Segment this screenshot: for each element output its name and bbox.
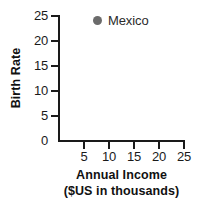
legend-item-label-mexico: Mexico xyxy=(108,14,149,27)
y-tick-mark-10 xyxy=(51,90,58,92)
x-axis-title: Annual Income ($US in thousands) xyxy=(58,167,185,199)
y-tick-label-0: 0 xyxy=(8,134,48,147)
y-tick-mark-20 xyxy=(51,40,58,42)
x-tick-mark-15 xyxy=(133,142,135,149)
x-tick-mark-25 xyxy=(183,142,185,149)
y-tick-mark-5 xyxy=(51,115,58,117)
x-tick-mark-10 xyxy=(108,142,110,149)
y-tick-label-20: 20 xyxy=(8,34,48,47)
filled-circle-marker-icon xyxy=(93,16,102,25)
plot-area xyxy=(60,15,185,140)
x-tick-label-25: 25 xyxy=(164,150,199,163)
y-tick-label-5: 5 xyxy=(8,109,48,122)
y-tick-mark-15 xyxy=(51,65,58,67)
x-axis-line xyxy=(58,140,185,142)
x-axis-title-line-1: Annual Income xyxy=(58,167,185,183)
y-tick-label-25: 25 xyxy=(8,9,48,22)
y-axis-title: Birth Rate xyxy=(9,48,23,109)
scatter-chart: 25 20 15 10 5 0 5 10 15 20 25 Birth Rate… xyxy=(0,0,199,210)
x-tick-mark-5 xyxy=(83,142,85,149)
legend: Mexico xyxy=(93,14,149,27)
x-tick-mark-20 xyxy=(158,142,160,149)
y-tick-mark-25 xyxy=(51,15,58,17)
x-axis-title-line-2: ($US in thousands) xyxy=(58,183,185,199)
